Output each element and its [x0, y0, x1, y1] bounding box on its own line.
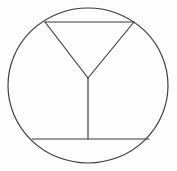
triangle-left-leg [45, 22, 88, 78]
figure-svg [0, 0, 177, 171]
triangle-right-leg [88, 22, 134, 78]
figure-canvas [0, 0, 177, 171]
